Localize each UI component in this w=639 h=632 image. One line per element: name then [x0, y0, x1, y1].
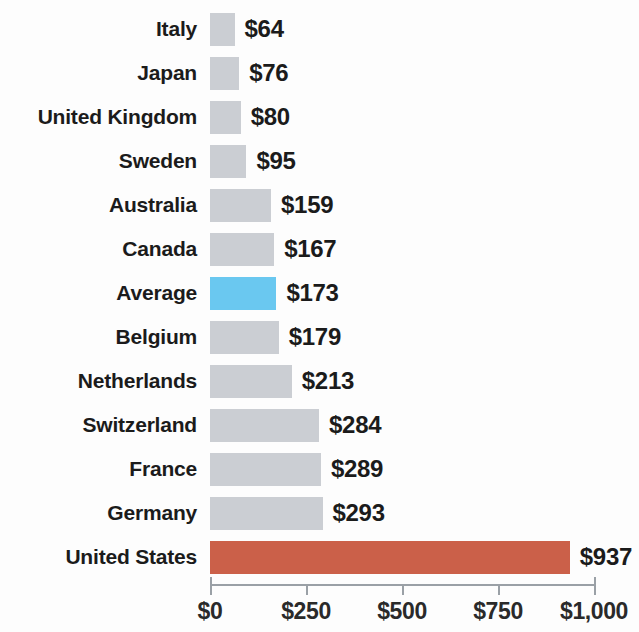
x-axis-tick-label: $0: [198, 598, 223, 625]
category-label: Australia: [0, 183, 197, 227]
category-label: France: [0, 447, 197, 491]
bar-row: Average$173: [0, 271, 639, 315]
bar: [210, 541, 570, 574]
x-axis-tick: [498, 586, 500, 595]
bar-value-label: $80: [251, 95, 290, 139]
category-label: Germany: [0, 491, 197, 535]
bar: [210, 497, 323, 530]
plot-area: Italy$64Japan$76United Kingdom$80Sweden$…: [0, 0, 639, 632]
bar: [210, 57, 239, 90]
x-axis-tick: [210, 586, 212, 595]
bar: [210, 277, 276, 310]
x-axis-tick-label: $750: [473, 598, 523, 625]
category-label: Sweden: [0, 139, 197, 183]
category-label: Netherlands: [0, 359, 197, 403]
bar-row: France$289: [0, 447, 639, 491]
bar-row: Italy$64: [0, 7, 639, 51]
bar-row: Switzerland$284: [0, 403, 639, 447]
bar-value-label: $937: [580, 535, 632, 579]
bar: [210, 409, 319, 442]
bar-value-label: $173: [286, 271, 338, 315]
bar: [210, 365, 292, 398]
bar-row: Canada$167: [0, 227, 639, 271]
bar-row: Netherlands$213: [0, 359, 639, 403]
category-label: Canada: [0, 227, 197, 271]
x-axis-tick: [594, 586, 596, 595]
category-label: Italy: [0, 7, 197, 51]
category-label: United States: [0, 535, 197, 579]
bar-value-label: $76: [249, 51, 288, 95]
bar-value-label: $167: [284, 227, 336, 271]
bar-row: Japan$76: [0, 51, 639, 95]
category-label: Switzerland: [0, 403, 197, 447]
x-axis-tick: [402, 586, 404, 595]
bar-row: United States$937: [0, 535, 639, 579]
x-axis-tick-label: $1,000: [560, 598, 628, 625]
category-label: Belgium: [0, 315, 197, 359]
category-label: United Kingdom: [0, 95, 197, 139]
x-axis-end-cap: [594, 577, 596, 585]
bar-value-label: $179: [289, 315, 341, 359]
bar-chart: Italy$64Japan$76United Kingdom$80Sweden$…: [0, 0, 639, 632]
bar-value-label: $95: [256, 139, 295, 183]
bar-value-label: $213: [302, 359, 354, 403]
x-axis-tick-label: $250: [281, 598, 331, 625]
category-label: Japan: [0, 51, 197, 95]
bar: [210, 13, 235, 46]
bar: [210, 145, 246, 178]
x-axis-tick: [306, 586, 308, 595]
bar-row: Australia$159: [0, 183, 639, 227]
bar: [210, 189, 271, 222]
bar-value-label: $284: [329, 403, 381, 447]
bar: [210, 453, 321, 486]
category-label: Average: [0, 271, 197, 315]
bar-value-label: $159: [281, 183, 333, 227]
bar: [210, 101, 241, 134]
bar-row: Germany$293: [0, 491, 639, 535]
bar-value-label: $289: [331, 447, 383, 491]
bar-value-label: $293: [333, 491, 385, 535]
bar-value-label: $64: [245, 7, 284, 51]
bar: [210, 233, 274, 266]
bar-row: United Kingdom$80: [0, 95, 639, 139]
bar: [210, 321, 279, 354]
bar-row: Sweden$95: [0, 139, 639, 183]
x-axis-start-cap: [210, 577, 212, 585]
bar-row: Belgium$179: [0, 315, 639, 359]
x-axis-tick-label: $500: [377, 598, 427, 625]
